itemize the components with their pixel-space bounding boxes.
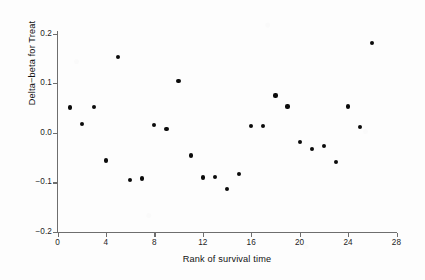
data-point [346,104,350,108]
y-axis-title: Delta−beta for Treat [27,0,37,138]
data-point [116,55,120,59]
data-point [213,175,217,179]
data-point [261,124,265,128]
scatter-plot-figure: 0.20.10.0−0.1−0.2 0481216202428 Rank of … [0,0,425,280]
data-point [249,124,253,128]
data-point [237,172,241,176]
data-point [273,93,277,97]
data-point [310,147,314,151]
data-point [322,144,326,148]
data-point [152,123,156,127]
data-point [80,122,84,126]
data-point [334,160,338,164]
data-point [358,125,362,129]
data-point [128,178,132,182]
data-point [298,140,302,144]
x-axis-title: Rank of survival time [57,254,397,264]
data-point [140,176,144,180]
data-point [370,41,374,45]
data-point [68,105,72,109]
data-point [92,105,96,109]
data-point [285,104,289,108]
data-point [189,153,193,157]
data-point [176,79,180,83]
data-point [201,175,205,179]
data-points-layer [0,0,425,280]
data-point [104,158,108,162]
data-point [164,127,168,131]
data-point [225,187,229,191]
